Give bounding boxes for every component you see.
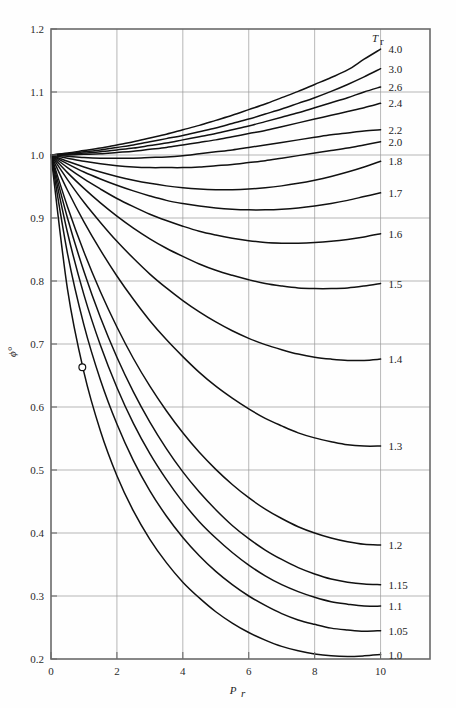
chart-canvas: 0.20.30.40.50.60.70.80.91.01.11.2 024681… (0, 0, 456, 708)
curve-tr-3.0 (51, 69, 381, 155)
fugacity-coefficient-chart: 0.20.30.40.50.60.70.80.91.01.11.2 024681… (0, 0, 456, 708)
y-axis-tick-labels: 0.20.30.40.50.60.70.80.91.01.11.2 (30, 23, 44, 665)
y-tick-label: 0.8 (30, 275, 44, 287)
curve-label-tr-2.2: 2.2 (389, 124, 403, 136)
curve-tr-2.4 (51, 103, 381, 155)
curve-tr-1.3 (51, 155, 381, 446)
curve-label-tr-1.3: 1.3 (389, 440, 403, 452)
x-axis-title-text: P (229, 684, 237, 696)
curve-tr-1.2 (51, 155, 381, 545)
x-tick-label: 8 (312, 665, 318, 677)
curve-tr-1.4 (51, 155, 381, 361)
legend-header-text: T (372, 32, 379, 44)
curve-label-tr-1.7: 1.7 (389, 187, 403, 199)
curve-label-tr-1.2: 1.2 (389, 539, 403, 551)
curve-label-tr-4.0: 4.0 (389, 43, 403, 55)
curve-label-tr-1.15: 1.15 (389, 579, 409, 591)
x-tick-label: 0 (48, 665, 54, 677)
y-tick-label: 0.7 (30, 338, 44, 350)
curve-label-tr-2.6: 2.6 (389, 81, 403, 93)
curves-layer (51, 49, 381, 656)
curve-tr-1.6 (51, 155, 381, 243)
legend-header-subscript: r (380, 35, 384, 47)
curve-label-tr-2.0: 2.0 (389, 136, 403, 148)
gridlines (51, 29, 430, 659)
x-axis-title-subscript: r (241, 687, 246, 699)
y-tick-label: 1.2 (30, 23, 44, 35)
curve-tr-1.0 (51, 155, 381, 656)
legend-header: T r (372, 32, 384, 47)
curve-tr-1.05 (51, 155, 381, 631)
curve-tr-1.8 (51, 155, 381, 190)
curve-label-tr-2.4: 2.4 (389, 97, 403, 109)
y-tick-label: 1.1 (30, 86, 44, 98)
y-tick-label: 0.5 (30, 464, 44, 476)
y-tick-label: 0.3 (30, 590, 44, 602)
curve-labels: 4.03.02.62.42.22.01.81.71.61.51.41.31.21… (389, 43, 409, 660)
y-axis-title: ϕ° (6, 346, 18, 357)
y-tick-label: 0.4 (30, 527, 44, 539)
curve-label-tr-3.0: 3.0 (389, 63, 403, 75)
x-axis-title: P r (229, 684, 246, 699)
curve-label-tr-1.0: 1.0 (389, 649, 403, 661)
annotation-marker (79, 364, 86, 371)
x-tick-label: 4 (180, 665, 186, 677)
y-tick-label: 1.0 (30, 149, 44, 161)
y-tick-label: 0.6 (30, 401, 44, 413)
x-tick-label: 2 (114, 665, 120, 677)
x-axis-tick-labels: 0246810 (48, 665, 386, 677)
curve-tr-1.15 (51, 155, 381, 585)
curve-label-tr-1.1: 1.1 (389, 600, 403, 612)
y-axis-title-text: ϕ° (6, 346, 18, 357)
y-tick-label: 0.9 (30, 212, 44, 224)
curve-label-tr-1.8: 1.8 (389, 155, 403, 167)
curve-label-tr-1.05: 1.05 (389, 625, 409, 637)
annotation-point (79, 364, 86, 371)
x-tick-label: 6 (246, 665, 252, 677)
curve-label-tr-1.6: 1.6 (389, 228, 403, 240)
curve-label-tr-1.5: 1.5 (389, 278, 403, 290)
curve-label-tr-1.4: 1.4 (389, 353, 403, 365)
y-tick-label: 0.2 (30, 653, 44, 665)
x-tick-label: 10 (375, 665, 387, 677)
